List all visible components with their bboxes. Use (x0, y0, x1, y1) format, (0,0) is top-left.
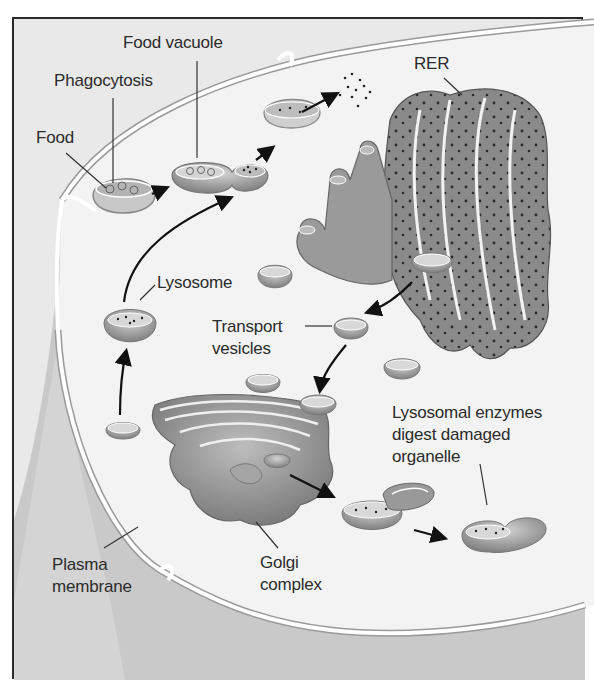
label-transport-line1: Transport (212, 317, 282, 337)
digesting-vacuole (264, 99, 320, 128)
vesicle-near-rer (258, 265, 292, 288)
rer-budding-vesicle (412, 253, 452, 273)
label-transport-line2: vesicles (212, 339, 271, 359)
label-plasma-line1: Plasma (52, 555, 108, 575)
food-vacuole-fusing (172, 163, 268, 194)
lysosome (104, 310, 156, 342)
label-food-vacuole: Food vacuole (123, 33, 223, 53)
label-plasma-line2: membrane (52, 577, 132, 597)
label-rer: RER (414, 54, 449, 74)
vesicle-free (246, 375, 280, 393)
label-golgi-line1: Golgi (260, 553, 299, 573)
label-enzymes-line2: digest damaged (392, 425, 510, 445)
label-lysosome: Lysosome (157, 273, 232, 293)
transport-vesicle (334, 318, 368, 339)
label-food: Food (36, 128, 74, 148)
vesicle-right (384, 359, 420, 379)
label-golgi-line2: complex (260, 575, 322, 595)
label-phagocytosis: Phagocytosis (54, 71, 153, 91)
label-enzymes-line3: organelle (392, 447, 460, 467)
label-enzymes-line1: Lysosomal enzymes (392, 403, 542, 423)
